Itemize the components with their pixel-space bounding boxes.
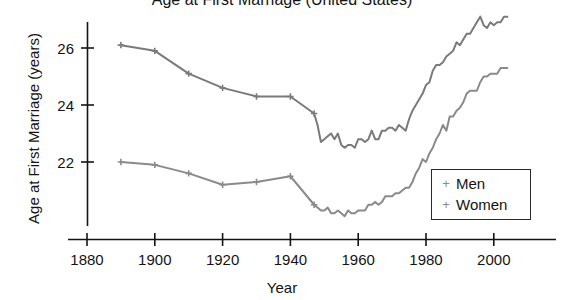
chart-figure: Age at First Marriage (United States) 26…	[0, 0, 564, 300]
plus-marker-icon: +	[438, 177, 454, 190]
x-tick-label-1900: 1900	[125, 252, 185, 267]
legend-box: + Men + Women	[431, 169, 531, 220]
x-tick-label-1940: 1940	[260, 252, 320, 267]
data-point-marker	[219, 182, 225, 188]
data-point-marker	[253, 179, 259, 185]
legend-label-women: Women	[454, 197, 507, 212]
y-axis-title: Age at First Marriage (years)	[25, 4, 42, 254]
data-point-marker	[253, 93, 259, 99]
legend-label-men: Men	[454, 176, 485, 191]
series-men	[118, 17, 508, 148]
data-point-marker	[219, 85, 225, 91]
x-tick-label-1980: 1980	[396, 252, 456, 267]
x-tick-label-1880: 1880	[57, 252, 117, 267]
x-tick-label-1920: 1920	[193, 252, 253, 267]
data-point-marker	[118, 42, 124, 48]
x-tick-label-2000: 2000	[464, 252, 524, 267]
x-tick-label-1960: 1960	[328, 252, 388, 267]
data-point-marker	[118, 159, 124, 165]
data-point-marker	[152, 162, 158, 168]
series-line	[121, 17, 507, 148]
legend-item-men[interactable]: + Men	[438, 173, 530, 194]
plus-marker-icon: +	[438, 198, 454, 211]
legend-item-women[interactable]: + Women	[438, 194, 530, 215]
x-axis-title: Year	[0, 279, 564, 296]
data-point-marker	[186, 170, 192, 176]
